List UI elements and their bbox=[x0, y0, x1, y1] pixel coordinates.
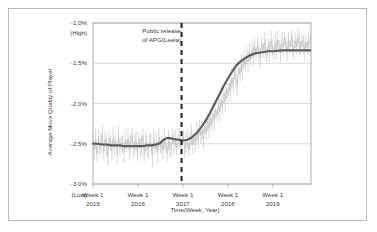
y-axis-title: Average Move Quality of Player bbox=[46, 69, 53, 156]
y-axis-low-label: (Low) bbox=[72, 191, 87, 198]
x-tick-label-year: 2015 bbox=[86, 200, 100, 207]
x-tick-label-week: Week 1 bbox=[262, 191, 283, 198]
x-tick-label-year: 2019 bbox=[266, 200, 280, 207]
y-axis-high-label: (High) bbox=[70, 29, 87, 36]
gridlines-group bbox=[93, 23, 311, 184]
y-tick-label: -2,0% bbox=[71, 100, 88, 107]
y-axis-tick-labels: -1,0%-1,5%-2,0%-2,5%-3,0% bbox=[71, 19, 88, 187]
x-axis-ticks bbox=[93, 184, 273, 188]
chart-canvas: -1,0%-1,5%-2,0%-2,5%-3,0% Week 12015Week… bbox=[9, 9, 368, 222]
x-tick-label-year: 2018 bbox=[221, 200, 235, 207]
figure-frame: -1,0%-1,5%-2,0%-2,5%-3,0% Week 12015Week… bbox=[8, 8, 367, 221]
x-tick-label-week: Week 1 bbox=[172, 191, 193, 198]
x-tick-label-week: Week 1 bbox=[217, 191, 238, 198]
y-tick-label: -1,5% bbox=[71, 59, 88, 66]
x-axis-tick-labels: Week 12015Week 12016Week 12017Week 12018… bbox=[83, 191, 284, 207]
chart-figure: -1,0%-1,5%-2,0%-2,5%-3,0% Week 12015Week… bbox=[0, 0, 377, 232]
annotation-line-1: Public release bbox=[142, 27, 181, 34]
x-tick-label-week: Week 1 bbox=[128, 191, 149, 198]
y-tick-label: -3,0% bbox=[71, 180, 88, 187]
y-tick-label: -2,5% bbox=[71, 140, 88, 147]
x-axis-title: Time(Week, Year) bbox=[170, 206, 219, 213]
y-tick-label: -1,0% bbox=[71, 19, 88, 26]
x-tick-label-year: 2016 bbox=[131, 200, 145, 207]
annotation-line-2: of APG(Leela) bbox=[142, 36, 181, 43]
